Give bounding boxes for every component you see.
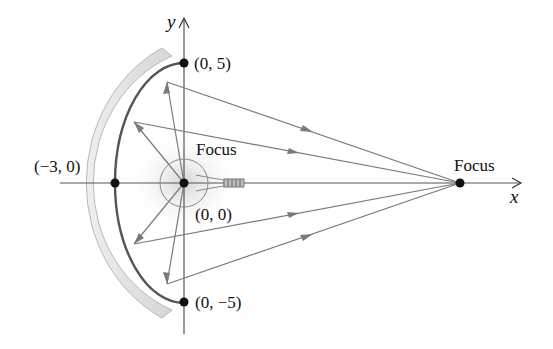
point-left-vertex: [111, 179, 120, 188]
point-origin-focus: [180, 179, 189, 188]
label-bottom-vertex: (0, −5): [195, 293, 241, 312]
point-top-vertex: [180, 59, 189, 68]
ellipse-reflector-diagram: y x (0, 5) (0, −5) (−3, 0) (0, 0) Focus …: [0, 0, 553, 349]
label-top-vertex: (0, 5): [194, 54, 231, 73]
label-left-vertex: (−3, 0): [34, 157, 80, 176]
point-right-focus: [456, 179, 465, 188]
label-origin: (0, 0): [195, 205, 232, 224]
y-axis-label: y: [165, 11, 176, 32]
x-axis-label: x: [509, 186, 519, 207]
label-left-focus: Focus: [196, 140, 237, 159]
point-bottom-vertex: [180, 298, 189, 307]
label-right-focus: Focus: [454, 156, 495, 175]
